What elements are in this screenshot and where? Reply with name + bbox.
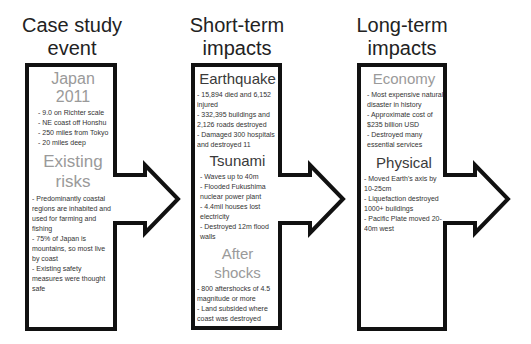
heading-line: impacts — [335, 37, 469, 60]
heading-case-study: Case study event — [5, 14, 139, 60]
list-item: - Approximate cost of $235 billion USD — [367, 110, 444, 130]
section-title-japan-2011: Japan 2011 — [32, 70, 114, 106]
list-item: - Flooded Fukushima nuclear power plant — [200, 182, 278, 202]
list-item: - 4.4mil houses lost electricity — [200, 202, 278, 222]
list-item: - 332,395 buildings and 2,126 roads dest… — [197, 110, 278, 130]
section-title-tsunami: Tsunami — [197, 152, 278, 170]
title-line: Existing — [32, 152, 114, 172]
title-line: shocks — [197, 263, 278, 282]
existing-risks-list: - Predominantly coastal regions are inha… — [32, 194, 114, 294]
list-item: - Damaged 300 hospitals and destroyed 11 — [197, 130, 278, 150]
list-item: - Destroyed 12m flood walls — [200, 222, 278, 242]
section-title-economy: Economy — [364, 70, 444, 88]
list-item: - 20 miles deep — [38, 138, 114, 148]
list-item: - Waves up to 40m — [200, 172, 278, 182]
column-short-term: Earthquake - 15,894 died and 6,152 injur… — [197, 70, 278, 324]
heading-long-term: Long-term impacts — [335, 14, 469, 60]
heading-line: event — [5, 37, 139, 60]
heading-line: Case study — [5, 14, 139, 37]
heading-short-term: Short-term impacts — [170, 14, 304, 60]
tsunami-list: - Waves up to 40m - Flooded Fukushima nu… — [197, 172, 278, 242]
list-item: - Pacific Plate moved 20-40m west — [364, 214, 444, 234]
heading-line: impacts — [170, 37, 304, 60]
list-item: - 800 aftershocks of 4.5 magnitude or mo… — [197, 284, 278, 304]
list-item: - 250 miles from Tokyo — [38, 128, 114, 138]
list-item: - Land subsided where coast was destroye… — [197, 304, 278, 324]
physical-list: - Moved Earth's axis by 10-25cm - Liquef… — [364, 174, 444, 234]
earthquake-list: - 15,894 died and 6,152 injured - 332,39… — [197, 90, 278, 150]
heading-line: Short-term — [170, 14, 304, 37]
title-line: After — [197, 244, 278, 263]
list-item: - 75% of Japan is mountains, so most liv… — [32, 234, 114, 264]
list-item: - Destroyed many essential services — [367, 130, 444, 150]
section-title-physical: Physical — [364, 153, 444, 172]
column-long-term: Economy - Most expensive natural disaste… — [364, 70, 444, 325]
economy-list: - Most expensive natural disaster in his… — [364, 90, 444, 150]
section-title-aftershocks: After shocks — [197, 244, 278, 282]
list-item: - NE coast off Honshu — [38, 118, 114, 128]
list-item: - Most expensive natural disaster in his… — [367, 90, 444, 110]
list-item: - Predominantly coastal regions are inha… — [32, 194, 114, 234]
aftershocks-list: - 800 aftershocks of 4.5 magnitude or mo… — [197, 284, 278, 324]
list-item: - Moved Earth's axis by 10-25cm — [364, 174, 444, 194]
japan-facts-list: - 9.0 on Richter scale - NE coast off Ho… — [32, 108, 114, 148]
title-line: risks — [32, 172, 114, 192]
section-title-existing-risks: Existing risks — [32, 152, 114, 192]
section-title-earthquake: Earthquake — [197, 70, 278, 88]
column-case-study: Japan 2011 - 9.0 on Richter scale - NE c… — [32, 70, 114, 325]
list-item: - Existing safety measures were thought … — [32, 264, 114, 294]
list-item: - Liquefaction destroyed 1000+ buildings — [364, 194, 444, 214]
list-item: - 15,894 died and 6,152 injured — [197, 90, 278, 110]
heading-line: Long-term — [335, 14, 469, 37]
list-item: - 9.0 on Richter scale — [38, 108, 114, 118]
